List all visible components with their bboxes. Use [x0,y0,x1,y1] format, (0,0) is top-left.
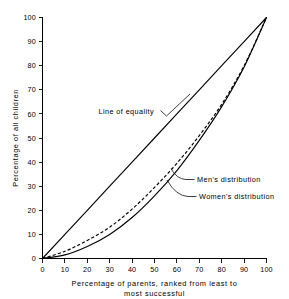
x-axis-title-line-1: Percentage of parents, ranked from least… [72,279,238,288]
y-tick-label: 0 [32,254,36,263]
line-of-equality-curve [43,18,267,259]
lorenz-curve-figure: 0 10 20 30 40 50 60 70 80 90 100 [0,0,289,299]
y-tick-label: 80 [28,61,36,70]
mens-distribution-label: Men's distribution [197,175,261,184]
x-tick-label: 30 [105,265,113,274]
x-tick-label: 10 [61,265,69,274]
x-axis-title-line-2: most successful [124,289,185,298]
x-tick-label: 100 [260,265,273,274]
x-tick-label: 70 [195,265,203,274]
x-tick-label: 50 [150,265,158,274]
x-tick-label: 90 [240,265,248,274]
x-tick-label: 40 [128,265,136,274]
womens-distribution-label: Women's distribution [199,192,274,201]
annotation-leaders [161,94,197,197]
x-axis-ticks [43,259,267,263]
line-of-equality-label: Line of equality [99,107,155,116]
y-axis-tick-labels: 0 10 20 30 40 50 60 70 80 90 100 [23,13,36,263]
series-lines [43,18,267,259]
x-tick-label: 0 [40,265,44,274]
y-tick-label: 30 [28,182,36,191]
y-tick-label: 70 [28,85,36,94]
y-axis-ticks [39,18,43,259]
womens-leader-line [167,180,197,197]
y-tick-label: 100 [23,13,36,22]
annotation-labels: Line of equality Men's distribution Wome… [99,107,275,202]
y-tick-label: 40 [28,158,36,167]
y-tick-label: 90 [28,37,36,46]
y-axis-title: Percentage of all children [11,89,20,187]
x-axis-tick-labels: 0 10 20 30 40 50 60 70 80 90 100 [40,265,272,274]
mens-leader-line [171,169,195,180]
y-tick-label: 50 [28,134,36,143]
y-tick-label: 20 [28,206,36,215]
y-tick-label: 10 [28,230,36,239]
x-tick-label: 60 [173,265,181,274]
x-tick-label: 20 [83,265,91,274]
y-tick-label: 60 [28,110,36,119]
x-tick-label: 80 [217,265,225,274]
chart-canvas: 0 10 20 30 40 50 60 70 80 90 100 [0,0,289,299]
